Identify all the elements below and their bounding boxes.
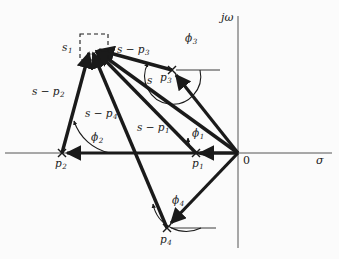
label-s-minus-p3: s − p3 xyxy=(117,44,150,56)
label-imaginary-axis: jω xyxy=(221,12,233,23)
label-s-minus-p2: s − p2 xyxy=(32,86,65,98)
s-plane-pole-vector-diagram: s1 s − p3 s − p2 s − p4 s − p1 s p1 p2 p… xyxy=(0,0,339,259)
label-s1: s1 xyxy=(62,42,72,54)
label-phi4: ϕ4 xyxy=(172,195,184,207)
label-p3: p3 xyxy=(160,72,172,84)
label-s-minus-p1: s − p1 xyxy=(137,122,170,134)
vector-s-minus-p2 xyxy=(62,53,89,153)
position-vector-group xyxy=(67,75,238,223)
label-phi2: ϕ2 xyxy=(91,132,103,144)
label-origin: 0 xyxy=(243,155,250,166)
vector-s-minus-p4 xyxy=(93,53,167,228)
position-vector-p4 xyxy=(171,153,238,223)
label-real-axis: σ xyxy=(316,155,324,166)
label-p1: p1 xyxy=(192,158,204,170)
vector-s xyxy=(97,51,238,153)
label-phi1: ϕ1 xyxy=(192,128,204,140)
label-p2: p2 xyxy=(55,158,67,170)
label-s-vector: s xyxy=(147,75,153,87)
label-p4: p4 xyxy=(160,234,172,246)
label-phi3: ϕ3 xyxy=(185,33,197,45)
label-s-minus-p4: s − p4 xyxy=(85,108,118,120)
